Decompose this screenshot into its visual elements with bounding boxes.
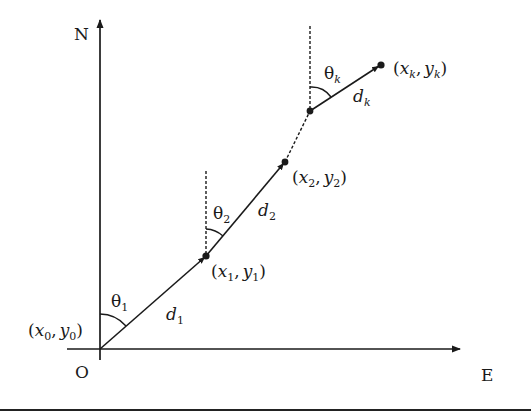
thetak-label: θk — [324, 63, 341, 86]
point-pk-dot — [377, 61, 384, 68]
angle-arc-theta1 — [100, 314, 126, 326]
point-p2-label: (x2,y2) — [292, 167, 347, 190]
point-pk-label: (xk,yk) — [393, 58, 447, 81]
dk-label: dk — [353, 86, 371, 109]
east-label: E — [481, 365, 493, 385]
point-pk-minus-1-dot — [307, 108, 314, 115]
angle-arc-thetak — [310, 87, 331, 97]
north-label: N — [74, 24, 89, 44]
d1-label: d1 — [166, 304, 184, 327]
point-p1-dot — [202, 252, 209, 259]
theta1-label: θ1 — [111, 291, 128, 314]
theta2-label: θ2 — [213, 203, 230, 226]
point-p0-label: (x0,y0) — [28, 320, 83, 343]
dead-reckoning-diagram: N E O θ1 θ2 θk d1 d2 dk (x0,y0) (x1,y1) … — [0, 0, 531, 415]
d2-label: d2 — [258, 200, 276, 223]
origin-label: O — [75, 362, 89, 382]
segment-dashed-intermediate — [285, 111, 310, 162]
point-p2-dot — [282, 159, 289, 166]
point-p1-label: (x1,y1) — [211, 261, 266, 284]
angle-arc-theta2 — [206, 229, 223, 236]
